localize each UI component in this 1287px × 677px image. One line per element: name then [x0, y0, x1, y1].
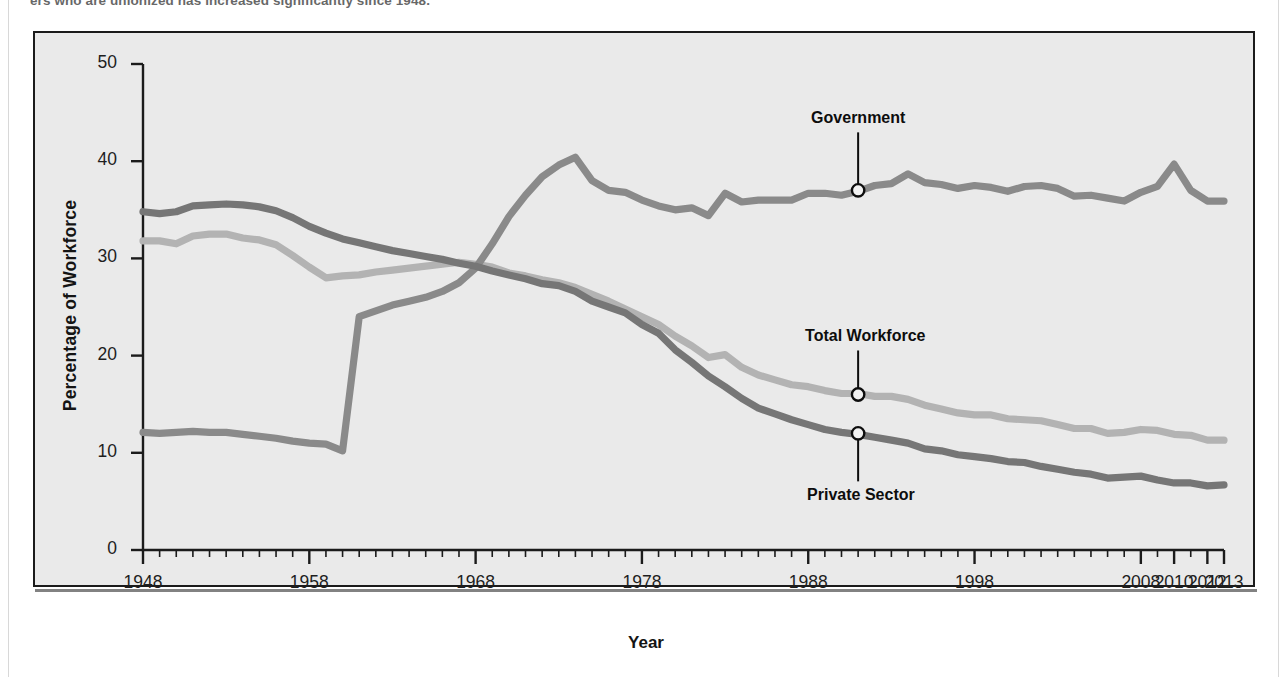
y-tick-label: 30 — [71, 246, 117, 267]
figure-caption-clipped: ers who are unionized has increased sign… — [30, 0, 930, 11]
panel-shadow — [35, 589, 1257, 592]
series-label-total-workforce: Total Workforce — [805, 327, 925, 345]
y-tick-label: 10 — [71, 441, 117, 462]
y-tick-label: 0 — [71, 538, 117, 559]
y-tick-label: 20 — [71, 344, 117, 365]
line-chart-svg — [35, 33, 1257, 589]
y-tick-label: 50 — [71, 52, 117, 73]
series-label-private-sector: Private Sector — [807, 486, 915, 504]
figure-panel: Percentage of Workforce Year 01020304050… — [33, 31, 1255, 587]
page-rule-right — [1278, 0, 1279, 677]
x-axis-title: Year — [35, 633, 1257, 653]
plot-area: Percentage of Workforce Year 01020304050… — [35, 33, 1257, 589]
y-tick-label: 40 — [71, 149, 117, 170]
series-label-government: Government — [811, 109, 905, 127]
page-rule-left — [8, 0, 9, 677]
